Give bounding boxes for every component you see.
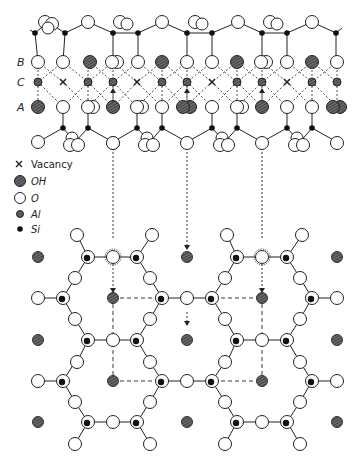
arrow-up-icon	[110, 88, 116, 93]
oxygen-atom	[306, 16, 319, 29]
oxygen-atom	[281, 56, 294, 69]
legend-label-si: Si	[31, 224, 40, 235]
oxygen-atom	[132, 56, 145, 69]
layer-B	[32, 56, 344, 69]
legend: Vacancy OH O Al Si	[15, 159, 73, 235]
oxygen-atom	[156, 101, 169, 114]
oxygen-atom	[206, 56, 219, 69]
aluminium-atom	[258, 78, 266, 86]
oxygen-atom	[72, 139, 85, 152]
oxygen-atom	[57, 101, 70, 114]
oxygen-atom	[181, 56, 194, 69]
oxygen-atom	[222, 139, 235, 152]
top-silicon-row	[32, 30, 339, 36]
silicon-atom	[284, 30, 290, 36]
oxygen-atom	[255, 56, 268, 69]
oxygen-atom	[196, 18, 208, 30]
aluminium-atom	[34, 78, 42, 86]
silicon-atom	[309, 125, 315, 131]
oxygen-atom	[57, 56, 70, 69]
vacancy-marker	[284, 79, 290, 85]
oxygen-atom	[32, 56, 45, 69]
oxygen-atom	[206, 101, 219, 114]
bottom-silicon-row	[60, 125, 315, 131]
vacancy-marker	[60, 79, 66, 85]
layer-A	[32, 101, 347, 114]
bottom-oxygen-row	[32, 132, 344, 152]
arrow-up-icon	[184, 88, 190, 93]
oxygen-atom	[42, 22, 54, 34]
top-oxygen-row	[39, 16, 319, 35]
plan-view	[32, 229, 344, 451]
legend-label-oh: OH	[31, 176, 47, 187]
oxygen-atom	[106, 56, 119, 69]
silicon-atom	[62, 30, 68, 36]
oxygen-atom	[131, 101, 144, 114]
oxygen-atom	[256, 137, 269, 150]
silicon-atom	[32, 30, 38, 36]
aluminium-atom	[109, 78, 117, 86]
aluminium-atom	[158, 78, 166, 86]
vacancy-icon	[16, 161, 22, 167]
side-view	[30, 16, 347, 152]
legend-label-al: Al	[30, 209, 41, 220]
oxygen-atom	[82, 16, 95, 29]
silicon-atom	[259, 30, 265, 36]
aluminium-atom	[84, 78, 92, 86]
vacancy-marker	[134, 79, 140, 85]
oxygen-atom	[181, 137, 194, 150]
hydroxyl-atom	[306, 56, 319, 69]
oxygen-atom	[331, 137, 344, 150]
legend-label-o: O	[31, 193, 39, 204]
aluminium-atom	[333, 78, 341, 86]
oxygen-atom	[156, 16, 169, 29]
oxygen-icon	[15, 193, 26, 204]
silicon-atom	[134, 125, 140, 131]
oxygen-atom	[331, 56, 344, 69]
oxygen-atom	[32, 136, 45, 149]
hydroxyl-atom	[327, 101, 340, 114]
hydroxyl-atom	[84, 56, 97, 69]
oxygen-atom	[271, 18, 283, 30]
silicon-atom	[284, 125, 290, 131]
hydroxyl-atom	[256, 101, 269, 114]
silicon-atom	[184, 30, 190, 36]
layer-C	[34, 78, 341, 86]
oxygen-atom	[297, 139, 310, 152]
arrow-down-icon	[184, 321, 190, 326]
layer-label-C: C	[17, 76, 25, 89]
silicon-atom	[60, 125, 66, 131]
hydroxyl-atom	[107, 101, 120, 114]
hydroxyl-icon	[15, 176, 26, 187]
aluminium-atom	[233, 78, 241, 86]
silicon-atom	[159, 125, 165, 131]
oxygen-atom	[147, 139, 160, 152]
silicon-atom	[110, 30, 116, 36]
aluminium-atom	[308, 78, 316, 86]
layer-label-A: A	[16, 101, 25, 114]
oxygen-atom	[107, 137, 120, 150]
silicon-atom	[209, 30, 215, 36]
vacancy-marker	[209, 79, 215, 85]
oxygen-atom	[82, 101, 95, 114]
silicon-atom	[333, 30, 339, 36]
arrow-down-icon	[184, 245, 190, 250]
hydroxyl-atom	[177, 101, 190, 114]
silicon-atom	[209, 125, 215, 131]
arrow-up-icon	[259, 88, 265, 93]
arrow-heads	[110, 88, 265, 326]
oxygen-atom	[232, 16, 245, 29]
legend-label-vacancy: Vacancy	[31, 159, 73, 170]
oxygen-atom	[306, 101, 319, 114]
hydroxyl-atom	[32, 101, 45, 114]
aluminium-atom	[183, 78, 191, 86]
layer-label-B: B	[17, 56, 25, 69]
clay-structure-diagram: B C A Vacancy OH O Al Si	[0, 0, 358, 467]
silicon-atom	[234, 125, 240, 131]
silicon-icon	[17, 226, 23, 232]
oxygen-atom	[121, 18, 133, 30]
hydroxyl-atom	[231, 56, 244, 69]
aluminium-icon	[17, 211, 24, 218]
oxygen-atom	[281, 101, 294, 114]
silicon-atom	[85, 125, 91, 131]
